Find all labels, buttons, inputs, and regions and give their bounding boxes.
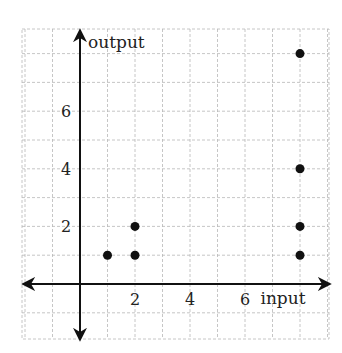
data-point — [103, 251, 112, 260]
y-tick-label: 2 — [61, 217, 71, 236]
data-point — [131, 251, 140, 260]
data-point — [296, 251, 305, 260]
y-axis-label: output — [88, 32, 145, 52]
x-tick-label: 4 — [185, 290, 195, 309]
data-point — [296, 164, 305, 173]
data-point — [296, 222, 305, 231]
x-axis-label: input — [260, 288, 305, 308]
tick-labels: 246246 — [61, 102, 250, 309]
x-tick-label: 6 — [240, 290, 250, 309]
data-point — [131, 222, 140, 231]
data-points — [103, 49, 305, 260]
y-tick-label: 4 — [61, 160, 71, 179]
scatter-chart: 246246 input output — [0, 0, 342, 353]
y-tick-label: 6 — [61, 102, 71, 121]
data-point — [296, 49, 305, 58]
x-tick-label: 2 — [130, 290, 140, 309]
